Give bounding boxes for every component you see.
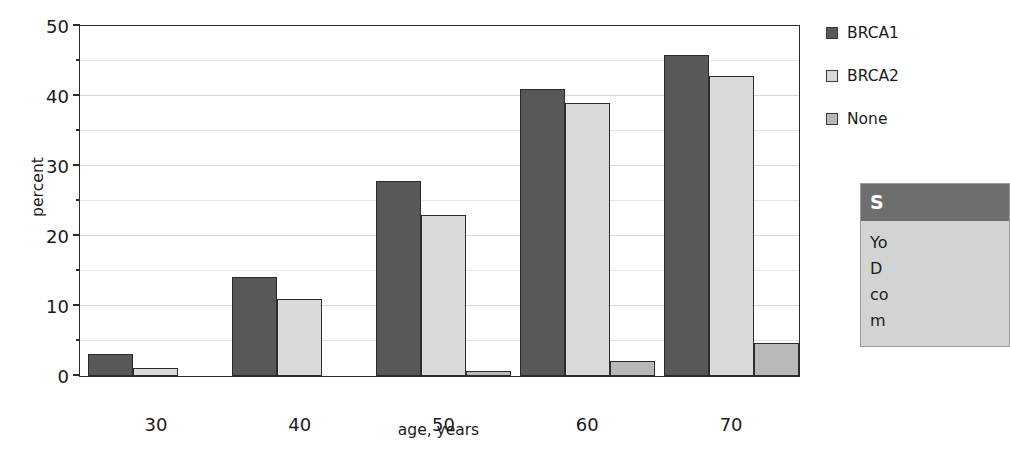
bar [754, 343, 799, 376]
bar [376, 181, 421, 376]
bar [421, 215, 466, 376]
bar [610, 361, 655, 376]
callout-header: S [861, 184, 1009, 221]
y-tick-major [73, 304, 80, 306]
y-tick-minor [76, 339, 80, 341]
callout-line: Yo [870, 230, 1000, 256]
y-tick-label: 40 [46, 86, 69, 107]
y-tick-label: 10 [46, 296, 69, 317]
y-tick-major [73, 374, 80, 376]
y-tick-major [73, 234, 80, 236]
legend-item-brca1: BRCA1 [826, 22, 946, 44]
bar [277, 299, 322, 376]
legend-swatch-icon [826, 27, 838, 39]
callout-line: D [870, 256, 1000, 282]
callout-line: m [870, 308, 1000, 334]
y-tick-label: 50 [46, 16, 69, 37]
x-axis-label: age, years [79, 421, 798, 439]
bar [133, 368, 178, 376]
y-tick-major [73, 24, 80, 26]
side-callout-box: S YoDcom [860, 183, 1010, 347]
y-tick-minor [76, 269, 80, 271]
bar [520, 89, 565, 376]
bar [466, 371, 511, 376]
callout-body: YoDcom [861, 221, 1009, 346]
bar [709, 76, 754, 376]
bar [232, 277, 277, 376]
bar [88, 354, 133, 376]
y-tick-major [73, 94, 80, 96]
y-tick-label: 0 [58, 366, 69, 387]
y-tick-label: 30 [46, 156, 69, 177]
y-tick-label: 20 [46, 226, 69, 247]
y-axis-label: percent [29, 127, 47, 247]
bar [664, 55, 709, 376]
chart-legend: BRCA1BRCA2None [826, 22, 946, 151]
legend-item-none: None [826, 108, 946, 130]
plot-area: 010203040503040506070 [79, 25, 800, 377]
y-tick-minor [76, 199, 80, 201]
legend-label: BRCA1 [847, 24, 899, 42]
legend-swatch-icon [826, 70, 838, 82]
y-tick-major [73, 164, 80, 166]
legend-swatch-icon [826, 113, 838, 125]
y-tick-minor [76, 129, 80, 131]
legend-label: None [847, 110, 887, 128]
plot-inner [80, 26, 799, 376]
callout-line: co [870, 282, 1000, 308]
bar [565, 103, 610, 376]
legend-item-brca2: BRCA2 [826, 65, 946, 87]
y-tick-minor [76, 59, 80, 61]
legend-label: BRCA2 [847, 67, 899, 85]
